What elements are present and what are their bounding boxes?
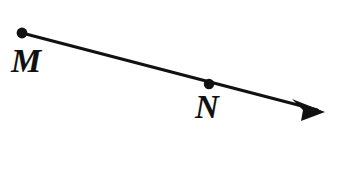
point-dot-m bbox=[17, 28, 28, 39]
point-label-m: M bbox=[11, 44, 41, 78]
figure-background bbox=[0, 0, 346, 170]
geometry-figure: M N bbox=[0, 0, 346, 170]
point-label-n: N bbox=[195, 91, 219, 124]
ray-diagram-canvas bbox=[0, 0, 346, 170]
point-dot-n bbox=[204, 79, 214, 89]
